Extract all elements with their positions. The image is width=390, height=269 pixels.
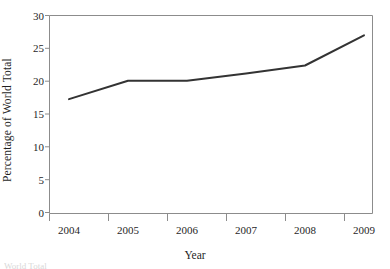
x-tick-label-2009: 2009 bbox=[344, 225, 384, 236]
x-axis-title: Year bbox=[0, 249, 390, 261]
x-tick-label-2007: 2007 bbox=[226, 225, 266, 236]
x-tick-label-2006: 2006 bbox=[167, 225, 207, 236]
data-series-line bbox=[69, 35, 364, 99]
x-tick-label-2008: 2008 bbox=[285, 225, 325, 236]
x-tick-label-2004: 2004 bbox=[49, 225, 89, 236]
y-tick-marks bbox=[45, 16, 50, 213]
x-tick-marks bbox=[50, 214, 345, 222]
clipped-caption-text: World Total bbox=[4, 262, 386, 269]
line-chart-figure: Percentage of World Total 30 25 20 15 10… bbox=[0, 0, 390, 269]
plot-frame bbox=[50, 16, 373, 214]
x-tick-label-2005: 2005 bbox=[108, 225, 148, 236]
